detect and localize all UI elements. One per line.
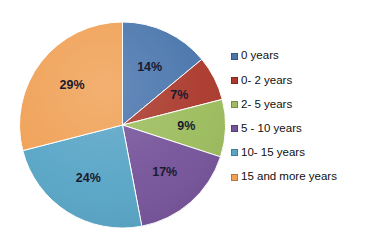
legend-swatch-icon-0-2-years xyxy=(231,77,238,84)
legend-item-0-2-years[interactable]: 0- 2 years xyxy=(231,68,369,92)
legend-label-0-years: 0 years xyxy=(241,50,279,62)
legend-swatch-icon-10-15-years xyxy=(231,149,238,156)
legend-swatch-icon-0-years xyxy=(231,53,238,60)
legend-swatch-icon-5-10-years xyxy=(231,125,238,132)
pie-slice-value-label: 17% xyxy=(152,165,177,179)
legend-item-10-15-years[interactable]: 10- 15 years xyxy=(231,141,369,165)
pie-plot-area: 14%7%9%17%24%29% xyxy=(0,0,238,238)
pie-chart-figure: 14%7%9%17%24%29% 0 years 0- 2 years 2- 5… xyxy=(0,0,369,238)
pie-slice-value-label: 7% xyxy=(170,88,188,102)
legend-label-0-2-years: 0- 2 years xyxy=(241,75,292,87)
pie-slice-value-label: 29% xyxy=(60,78,85,92)
legend-item-5-10-years[interactable]: 5 - 10 years xyxy=(231,117,369,141)
legend-item-15-and-more-years[interactable]: 15 and more years xyxy=(231,165,369,189)
pie-slice-value-label: 14% xyxy=(137,60,162,74)
legend-swatch-icon-15-and-more-years xyxy=(231,174,238,181)
pie-svg: 14%7%9%17%24%29% xyxy=(0,0,238,238)
pie-slice-value-label: 9% xyxy=(177,119,195,133)
legend-label-15-and-more-years: 15 and more years xyxy=(241,171,337,183)
legend-item-0-years[interactable]: 0 years xyxy=(231,44,369,68)
legend-swatch-icon-2-5-years xyxy=(231,101,238,108)
legend-label-10-15-years: 10- 15 years xyxy=(241,147,305,159)
legend-label-5-10-years: 5 - 10 years xyxy=(241,123,302,135)
chart-legend: 0 years 0- 2 years 2- 5 years 5 - 10 yea… xyxy=(231,44,369,189)
legend-item-2-5-years[interactable]: 2- 5 years xyxy=(231,92,369,116)
pie-slice-value-label: 24% xyxy=(76,171,101,185)
legend-label-2-5-years: 2- 5 years xyxy=(241,99,292,111)
